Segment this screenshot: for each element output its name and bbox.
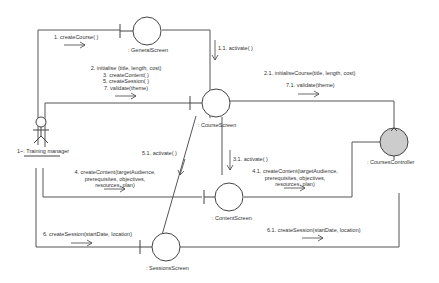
link-actor-course <box>45 103 190 147</box>
arrow-m6 <box>71 240 92 246</box>
arrow-m6-1 <box>302 235 323 241</box>
sessions-screen-icon <box>152 233 180 261</box>
msg-7-1: 7.1. validate(theme) <box>286 82 335 89</box>
general-screen-icon <box>133 17 161 45</box>
msg-3-1: 3.1. activate( ) <box>233 156 268 163</box>
general-screen-label: : GeneralScreen <box>128 47 168 54</box>
course-screen-icon <box>202 89 230 117</box>
msg-1: 1. createCourse( ) <box>54 34 98 41</box>
msg-5-1: 5.1. activate( ) <box>142 150 177 157</box>
courses-controller-icon <box>380 128 408 156</box>
msg-1-1: 1.1. activate( ) <box>218 45 253 52</box>
actor-label: 1~: Training manager <box>17 148 69 155</box>
arrow-m2 <box>115 93 136 99</box>
msg-6-1: 6.1. createSession(startDate, location) <box>267 227 361 234</box>
link-course-sessions <box>162 116 196 235</box>
courses-controller-label: : CoursesController <box>367 159 414 166</box>
content-screen-icon <box>215 183 243 211</box>
arrow-m1 <box>64 42 85 48</box>
msg-4-group: 4. createContent(targetAudience, prerequ… <box>70 169 160 189</box>
msg-4-1-group: 4.1. createContent(targetAudience, prere… <box>250 168 340 188</box>
course-screen-label: : CourseScreen <box>198 122 236 129</box>
link-course-controller <box>228 101 394 160</box>
msg-2-group: 2. initialise (title, length, cost) 3. c… <box>86 65 166 91</box>
content-screen-label: : ContentScreen <box>212 215 252 222</box>
msg-6: 6. createSession(startDate, location) <box>43 231 132 238</box>
sessions-screen-label: : SessionsScreen <box>146 265 189 272</box>
msg-2-1: 2.1. initialiseCourse(title, length, cos… <box>264 70 355 77</box>
diagram-canvas <box>0 0 439 283</box>
arrow-m2-1 <box>298 91 319 97</box>
